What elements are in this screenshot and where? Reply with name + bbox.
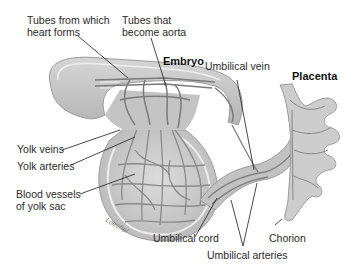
label-chorion: Chorion	[269, 232, 306, 244]
umbilical-cord-shape	[200, 125, 300, 210]
label-yolk-sac-vessels: Blood vessels of yolk sac	[16, 188, 81, 212]
anatomy-illustration	[0, 0, 351, 271]
label-umbilical-arteries: Umbilical arteries	[207, 249, 288, 261]
label-placenta: Placenta	[292, 70, 337, 82]
label-embryo: Embryo	[163, 55, 204, 67]
label-aorta-tubes: Tubes that become aorta	[122, 14, 186, 38]
label-umbilical-vein: Umbilical vein	[205, 60, 270, 72]
label-heart-tubes: Tubes from which heart forms	[27, 14, 109, 38]
label-yolk-arteries: Yolk arteries	[17, 160, 74, 172]
label-umbilical-cord: Umbilical cord	[153, 232, 219, 244]
label-yolk-veins: Yolk veins	[17, 143, 64, 155]
embryo-circulation-diagram: Tubes from which heart forms Tubes that …	[0, 0, 351, 271]
